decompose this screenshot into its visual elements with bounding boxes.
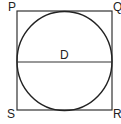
vertex-label-p: P xyxy=(8,0,16,14)
vertex-label-s: S xyxy=(7,107,15,121)
diameter-label: D xyxy=(60,48,69,62)
inscribed-circle-diagram: P Q R S D xyxy=(0,0,121,124)
vertex-label-r: R xyxy=(113,107,121,121)
vertex-label-q: Q xyxy=(113,0,121,14)
